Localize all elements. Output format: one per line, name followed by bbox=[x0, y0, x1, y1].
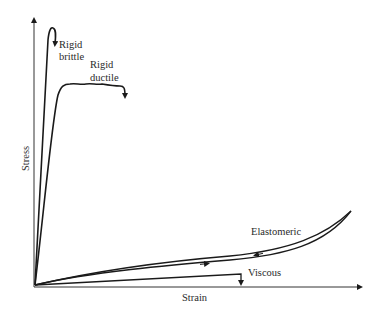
label-rigid-ductile-line2: ductile bbox=[90, 72, 119, 83]
label-rigid-brittle-line2: brittle bbox=[59, 51, 84, 62]
stress-strain-diagram: Rigid brittle Rigid ductile Elastomeric … bbox=[0, 0, 380, 309]
y-axis-label: Stress bbox=[20, 146, 31, 171]
label-viscous: Viscous bbox=[248, 267, 281, 278]
label-elastomeric: Elastomeric bbox=[251, 226, 301, 237]
x-axis-label: Strain bbox=[182, 292, 208, 303]
curve-rigid-ductile bbox=[35, 84, 125, 285]
curve-rigid-brittle bbox=[35, 28, 56, 285]
label-rigid-brittle-line1: Rigid bbox=[59, 39, 83, 50]
curve-elastomeric bbox=[35, 211, 351, 285]
curve-viscous bbox=[35, 274, 241, 285]
label-rigid-ductile-line1: Rigid bbox=[90, 59, 114, 70]
